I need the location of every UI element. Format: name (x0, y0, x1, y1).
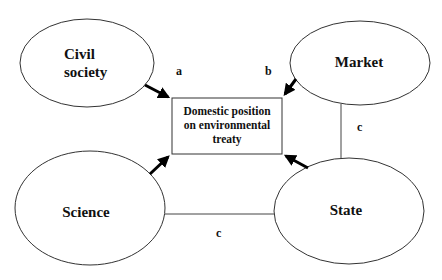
edge-label-a: a (176, 64, 182, 78)
diagram-canvas: Domestic position on environmental treat… (0, 0, 442, 280)
node-market: Market (290, 21, 430, 105)
node-civil-society: Civil society (20, 19, 154, 107)
arrow-civil-society-to-box (145, 85, 168, 97)
edge-label-c-market-state: c (357, 120, 363, 134)
edge-label-b: b (265, 64, 272, 78)
node-state-label: State (330, 202, 363, 218)
arrow-state-to-box (286, 156, 308, 168)
center-box: Domestic position on environmental treat… (172, 98, 282, 154)
node-state: State (274, 158, 424, 264)
node-science-label: Science (62, 204, 110, 220)
center-box-line-2: on environmental (184, 119, 270, 131)
node-civil-society-line-2: society (64, 64, 108, 80)
node-science: Science (15, 151, 165, 265)
arrow-market-to-box (285, 79, 296, 94)
node-civil-society-line-1: Civil (64, 46, 95, 62)
center-box-line-1: Domestic position (183, 105, 271, 118)
center-box-line-3: treaty (212, 133, 241, 146)
edge-label-c-science-state: c (216, 226, 222, 240)
arrow-science-to-box (150, 157, 168, 174)
node-market-label: Market (335, 54, 383, 70)
